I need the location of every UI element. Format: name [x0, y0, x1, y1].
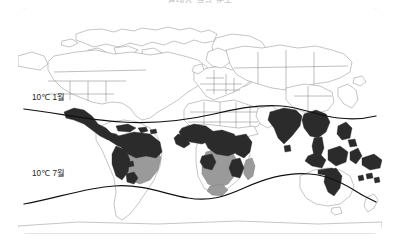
isotherm-july-label: 10℃ 7월	[32, 168, 65, 178]
isotherm-january-label: 10℃ 1월	[32, 92, 65, 102]
region-andes-dot	[128, 161, 134, 167]
region-sri-lanka	[284, 145, 291, 152]
world-map-svg: .ln{fill:none;stroke:#8a8a8a;stroke-widt…	[18, 8, 382, 234]
region-pacific-island-1	[366, 173, 373, 179]
figure-title: 열대성 질병 분포	[0, 0, 400, 3]
region-caribbean-3	[150, 129, 157, 134]
figure-page: 열대성 질병 분포 .ln{fill:none;stroke:#8a8a8a;s…	[0, 0, 400, 244]
world-map: .ln{fill:none;stroke:#8a8a8a;stroke-widt…	[18, 8, 382, 234]
region-pacific-island-3	[358, 175, 364, 181]
region-pacific-island-2	[374, 177, 380, 183]
